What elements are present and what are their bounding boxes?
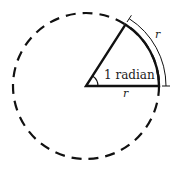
angle-label: 1 radian (104, 68, 155, 82)
radius-label: r (123, 87, 129, 100)
radian-diagram: 1 radian r r (0, 0, 181, 170)
dimension-tick-top (127, 15, 131, 22)
angle-marker-arc (93, 76, 99, 86)
arc-length-label: r (155, 28, 161, 41)
